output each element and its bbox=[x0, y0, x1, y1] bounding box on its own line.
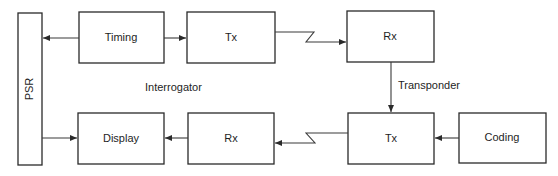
display-label: Display bbox=[103, 132, 140, 144]
rx-interrogator-label: Rx bbox=[224, 132, 238, 144]
tx-interrogator-label: Tx bbox=[225, 31, 238, 43]
rx-interrogator-block: Rx bbox=[188, 113, 274, 164]
rx-transponder-block: Rx bbox=[347, 11, 434, 62]
psr-label: PSR bbox=[23, 78, 35, 101]
tx-transponder-block: Tx bbox=[348, 113, 434, 164]
tx-interrogator-block: Tx bbox=[187, 12, 275, 63]
display-block: Display bbox=[78, 113, 164, 164]
timing-label: Timing bbox=[105, 31, 138, 43]
transponder-group-label: Transponder bbox=[398, 79, 460, 91]
coding-block: Coding bbox=[459, 113, 546, 163]
interrogator-group-label: Interrogator bbox=[145, 81, 202, 93]
psr-block: PSR bbox=[18, 13, 42, 165]
coding-label: Coding bbox=[485, 131, 520, 143]
rx-transponder-label: Rx bbox=[383, 30, 397, 42]
timing-block: Timing bbox=[79, 12, 164, 63]
tx-to-rx-radio-link bbox=[275, 32, 346, 42]
tx-to-rx-interrogator-radio-link bbox=[275, 133, 348, 143]
tx-transponder-label: Tx bbox=[385, 132, 398, 144]
block-diagram: PSR Timing Tx Rx Display Rx Tx Coding bbox=[0, 0, 558, 176]
